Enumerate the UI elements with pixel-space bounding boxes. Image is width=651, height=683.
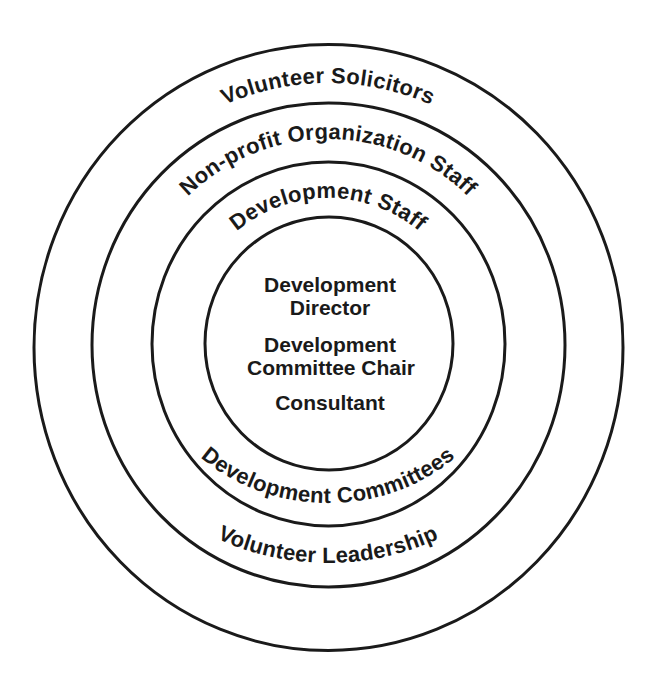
core-line-director: Director <box>290 296 371 319</box>
core-line-consultant: Consultant <box>275 391 385 414</box>
label-development-staff-text: Development Staff <box>225 178 433 236</box>
label-development-staff: Development Staff <box>225 178 433 236</box>
core-line-development-2: Development <box>264 333 396 356</box>
concentric-circles-diagram: Volunteer Solicitors Volunteer Leadershi… <box>0 0 651 683</box>
core-line-development-1: Development <box>264 273 396 296</box>
core-line-committee-chair: Committee Chair <box>247 356 415 379</box>
